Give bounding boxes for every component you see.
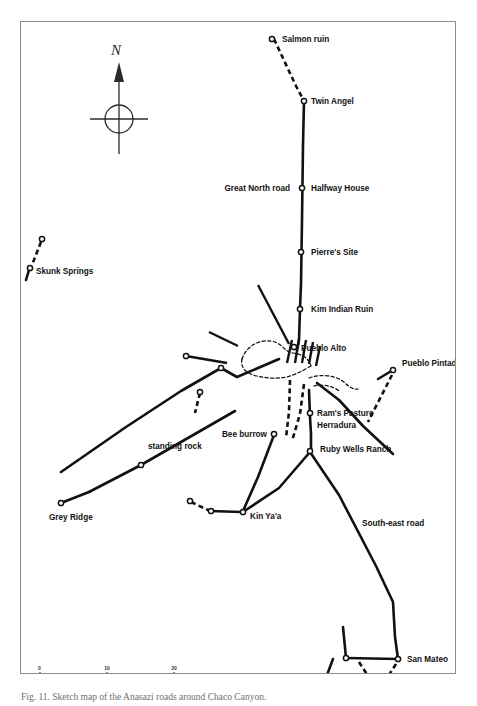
site-marker-road-stub-b[interactable]	[197, 389, 202, 394]
site-marker-kin-yaa-west-b[interactable]	[208, 508, 213, 513]
site-marker-skunk-springs-n[interactable]	[39, 236, 44, 241]
scale-tick-20: 20	[171, 665, 177, 671]
site-label-salmon-ruin: Salmon ruin	[282, 35, 329, 44]
compass-north-arrow	[114, 62, 124, 82]
site-marker-salmon-ruin[interactable]	[269, 36, 274, 41]
great-north-road-path	[274, 39, 304, 350]
site-label-group: Salmon ruin Twin Angel Halfway House Pie…	[36, 35, 455, 673]
site-label-skunk-springs: Skunk Springs	[36, 267, 94, 276]
site-marker-kin-yaa-west-a[interactable]	[187, 498, 192, 503]
map-frame: N	[20, 21, 456, 674]
site-label-kin-yaa: Kin Ya'a	[250, 512, 282, 521]
bee-burrow-road	[243, 435, 274, 511]
scale-tick-0: 0	[38, 665, 41, 671]
road-label-south-east-road: South-east road	[362, 519, 424, 528]
site-label-standing-rock: standing rock	[148, 442, 202, 451]
site-label-san-mateo: San Mateo	[407, 655, 448, 664]
haystack-feature	[324, 659, 333, 673]
site-marker-twin-angel[interactable]	[301, 98, 306, 103]
site-label-ruby-wells-ranch: Ruby Wells Ranch	[320, 445, 391, 454]
site-marker-bee-burrow[interactable]	[271, 431, 276, 436]
site-label-twin-angel: Twin Angel	[311, 97, 354, 106]
site-label-bee-burrow: Bee burrow	[222, 430, 268, 439]
kin-yaa-west-road	[191, 502, 242, 512]
site-marker-pierres-site[interactable]	[298, 249, 303, 254]
site-marker-skunk-springs-s[interactable]	[27, 265, 32, 270]
site-label-kim-indian-ruin: Kim Indian Ruin	[311, 305, 373, 314]
site-marker-san-mateo-west[interactable]	[343, 655, 348, 660]
site-marker-road-stub-a[interactable]	[183, 353, 188, 358]
rams-pasture-road	[309, 390, 311, 450]
road-label-group: Great North road South-east road	[224, 184, 424, 528]
map-canvas: N	[21, 22, 455, 673]
site-marker-pueblo-pintado[interactable]	[390, 367, 395, 372]
site-label-pueblo-pintado: Pueblo Pintado	[402, 359, 455, 368]
figure-container: N	[0, 0, 477, 706]
site-label-grey-ridge: Grey Ridge	[49, 513, 93, 522]
site-label-pueblo-alto: Pueblo Alto	[301, 344, 346, 353]
site-label-rams-pasture: Ram's Pasture	[317, 409, 374, 418]
site-marker-grey-ridge[interactable]	[58, 500, 63, 505]
site-marker-halfway-house[interactable]	[299, 185, 304, 190]
scale-tick-10: 10	[104, 665, 110, 671]
site-marker-ruby-wells-ranch[interactable]	[307, 448, 312, 453]
site-label-pierres-site: Pierre's Site	[311, 248, 358, 257]
san-mateo-roads	[343, 627, 398, 673]
site-label-herradura: Herradura	[317, 421, 357, 430]
road-label-great-north-road: Great North road	[224, 184, 290, 193]
site-marker-standing-rock[interactable]	[138, 462, 143, 467]
site-label-halfway-house: Halfway House	[311, 184, 370, 193]
site-marker-san-mateo[interactable]	[395, 656, 400, 661]
site-marker-kim-indian-ruin[interactable]	[297, 306, 302, 311]
site-marker-group	[27, 36, 400, 673]
road-stub-group	[186, 285, 289, 363]
south-east-road-path	[310, 452, 398, 659]
kin-yaa-ruby-wells-road	[243, 452, 310, 512]
site-marker-junction-west[interactable]	[218, 365, 223, 370]
site-marker-rams-pasture[interactable]	[307, 410, 312, 415]
figure-caption: Fig. 11. Sketch map of the Anasazi roads…	[21, 692, 451, 702]
scale-bar: 0 10 20 MILES SCALE	[38, 665, 198, 673]
compass-north-label: N	[110, 42, 122, 58]
site-marker-pueblo-alto[interactable]	[291, 344, 296, 349]
pueblo-alto-south-roads	[286, 380, 304, 441]
compass-rose: N	[90, 42, 148, 154]
site-marker-kin-yaa[interactable]	[240, 509, 245, 514]
